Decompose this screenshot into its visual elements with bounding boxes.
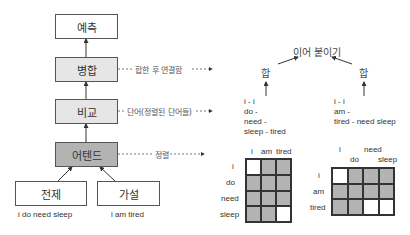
grid-cell xyxy=(261,191,276,207)
grid-right-col-label: need xyxy=(364,145,382,154)
grid-cell xyxy=(276,191,291,207)
sum-left-label: 합 xyxy=(261,65,270,80)
grid-cell xyxy=(363,199,379,215)
grid-left-row-label: do xyxy=(226,178,235,187)
aggregate-note: 합한 후 연결함 xyxy=(135,64,182,75)
grid-cell xyxy=(379,184,395,200)
grid-cell xyxy=(261,159,276,175)
compare-box: 비교 xyxy=(55,99,118,124)
compare-label: 비교 xyxy=(77,104,97,120)
grid-right-col-label: do xyxy=(350,155,359,164)
aggregate-box: 병합 xyxy=(55,57,118,82)
grid-cell xyxy=(379,199,395,215)
aggregate-label: 병합 xyxy=(77,62,97,78)
attention-grid-hypothesis xyxy=(331,167,395,216)
grid-left-row-label: need xyxy=(221,194,239,203)
grid-cell xyxy=(246,159,261,175)
hypothesis-label: 가설 xyxy=(119,186,139,202)
grid-left-col-label: tired xyxy=(276,147,292,156)
grid-left-col-label: i xyxy=(251,147,253,156)
grid-cell xyxy=(261,206,276,222)
grid-right-row-label: i xyxy=(318,171,320,180)
grid-cell xyxy=(348,184,364,200)
grid-left-col-label: am xyxy=(261,147,272,156)
grid-cell xyxy=(379,168,395,184)
grid-cell xyxy=(332,184,348,200)
sum-right-label: 합 xyxy=(359,65,368,80)
grid-left-row-label: sleep xyxy=(220,210,239,219)
grid-right-col-label: i xyxy=(339,145,341,154)
hypothesis-sentence: i am tired xyxy=(111,210,144,219)
hypothesis-box: 가설 xyxy=(97,181,160,206)
premise-box: 전제 xyxy=(15,181,87,206)
grid-cell xyxy=(332,199,348,215)
grid-cell xyxy=(332,168,348,184)
grid-cell xyxy=(276,159,291,175)
grid-cell xyxy=(276,206,291,222)
grid-right-row-label: tired xyxy=(310,203,326,212)
grid-cell xyxy=(261,175,276,191)
grid-cell xyxy=(363,168,379,184)
attention-grid-premise xyxy=(245,158,292,223)
attend-box: 어텐드 xyxy=(55,142,118,167)
grid-cell xyxy=(348,199,364,215)
compare-right-pairs: i - i am - tired - need sleep xyxy=(334,97,396,127)
grid-cell xyxy=(246,191,261,207)
grid-right-col-label: sleep xyxy=(378,155,397,164)
premise-sentence: i do need sleep xyxy=(18,210,72,219)
grid-cell xyxy=(348,168,364,184)
grid-cell xyxy=(363,184,379,200)
grid-cell xyxy=(246,175,261,191)
compare-left-pairs: i - i do - need - sleep - tired xyxy=(244,97,286,137)
predict-label: 예측 xyxy=(77,19,97,35)
attend-label: 어텐드 xyxy=(72,147,102,163)
predict-box: 예측 xyxy=(55,14,118,39)
compare-note: 단어(정렬된 단어들) xyxy=(127,106,192,117)
concat-label: 이어 붙이기 xyxy=(293,44,341,59)
premise-label: 전제 xyxy=(41,186,61,202)
grid-right-row-label: am xyxy=(313,187,324,196)
attend-note: 정렬 xyxy=(155,149,169,160)
grid-cell xyxy=(276,175,291,191)
grid-left-row-label: i xyxy=(232,162,234,171)
grid-cell xyxy=(246,206,261,222)
